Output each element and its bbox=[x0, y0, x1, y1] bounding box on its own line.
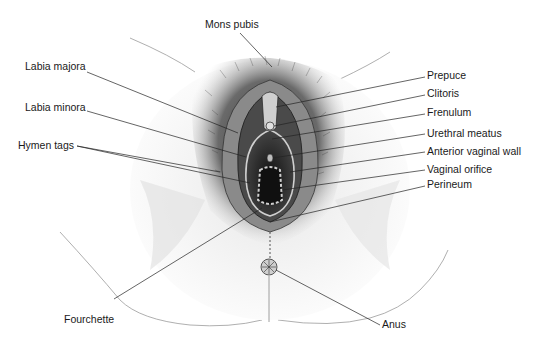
urethral-meatus bbox=[267, 154, 273, 162]
label-labia-majora: Labia majora bbox=[25, 60, 86, 72]
label-anus: Anus bbox=[382, 318, 406, 330]
clitoris bbox=[266, 122, 274, 130]
vaginal-orifice bbox=[258, 167, 282, 204]
label-prepuce: Prepuce bbox=[427, 69, 466, 81]
anatomy-diagram: Mons pubis Labia majora Labia minora Hym… bbox=[0, 0, 538, 343]
label-vaginal-orifice: Vaginal orifice bbox=[427, 163, 492, 175]
label-fourchette: Fourchette bbox=[64, 313, 114, 325]
anus-folds bbox=[262, 260, 276, 274]
label-labia-minora: Labia minora bbox=[25, 101, 86, 113]
label-anterior-vaginal-wall: Anterior vaginal wall bbox=[427, 145, 521, 157]
label-clitoris: Clitoris bbox=[427, 87, 459, 99]
label-hymen-tags: Hymen tags bbox=[18, 139, 74, 151]
label-perineum: Perineum bbox=[427, 178, 472, 190]
label-mons-pubis: Mons pubis bbox=[205, 18, 259, 30]
label-urethral-meatus: Urethral meatus bbox=[427, 127, 502, 139]
label-frenulum: Frenulum bbox=[427, 106, 471, 118]
